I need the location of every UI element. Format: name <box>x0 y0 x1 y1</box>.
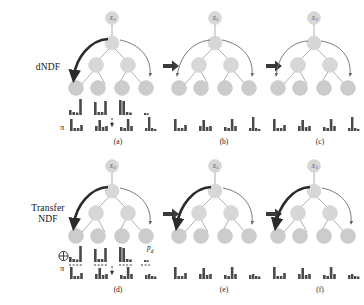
panel-d-leaf-3 <box>139 229 154 244</box>
panel-a-leaf-1 <box>91 81 106 96</box>
panel-c-leaf-2 <box>317 81 332 96</box>
panel-b-node-internal-1 <box>192 58 207 73</box>
panel-b-leaf-2 <box>218 81 233 96</box>
panel-c-tree: X U <box>271 12 356 96</box>
panel-c-leaf-0 <box>271 81 286 96</box>
panel-c-node-internal-2 <box>323 58 338 73</box>
panel-e-node-internal-2 <box>224 206 239 221</box>
panel-c-pi-histograms <box>273 117 359 131</box>
panel-d-leaf-histograms <box>69 246 149 262</box>
panel-d-leaf-1 <box>91 229 106 244</box>
panel-a-leaf-histograms <box>69 99 149 115</box>
panel-f-leaf-3 <box>341 229 356 244</box>
panel-b-leaf-3 <box>242 81 257 96</box>
panel-a-node-internal-2 <box>121 58 136 73</box>
panel-f-node-internal-2 <box>323 206 338 221</box>
arrow-d-to-e <box>163 209 179 220</box>
panel-c-node-internal-1 <box>291 58 306 73</box>
panel-f-leaf-2 <box>317 229 332 244</box>
figure-svg: X S <box>0 0 364 305</box>
panel-f-node-internal-1 <box>291 206 306 221</box>
panel-a-leaf-2 <box>115 81 130 96</box>
panel-a-tree: X S <box>69 12 154 96</box>
panel-b-arc-left <box>177 40 210 76</box>
panel-e-leaf-2 <box>218 229 233 244</box>
panel-b-node-internal-0 <box>208 36 222 50</box>
panel-c-node-internal-0 <box>307 36 321 50</box>
panel-a-node-internal-1 <box>89 58 104 73</box>
panel-f-tree: X U <box>271 160 356 244</box>
panel-a-leaf-3 <box>139 81 154 96</box>
panel-e-pi-histograms <box>174 267 260 279</box>
panel-b-node-internal-2 <box>224 58 239 73</box>
panel-b-leaf-1 <box>194 81 209 96</box>
panel-e-leaf-3 <box>242 229 257 244</box>
panel-e-node-internal-1 <box>192 206 207 221</box>
panel-c-leaf-1 <box>293 81 308 96</box>
panel-e-tree: X L <box>172 160 257 244</box>
panel-f-leaf-1 <box>293 229 308 244</box>
arrow-a-to-b <box>163 61 179 72</box>
panel-f-leaf-0 <box>271 229 286 244</box>
panel-d-node-internal-2 <box>121 206 136 221</box>
panel-f-pi-histograms <box>273 267 359 279</box>
panel-a-root-sub: S <box>114 17 116 22</box>
panel-a-leaf-0 <box>69 81 84 96</box>
panel-c-leaf-3 <box>341 81 356 96</box>
panel-c-arc-left <box>276 41 308 76</box>
panel-a-pi-histograms <box>70 117 156 131</box>
panel-d-root-sub: S <box>114 165 116 170</box>
panel-d-tree: X S <box>69 160 154 244</box>
figure-canvas: dNDF Transfer NDF π π pd (a) (b) (c) (d)… <box>0 0 364 305</box>
panel-e-leaf-0 <box>172 229 187 244</box>
panel-d-node-internal-1 <box>89 206 104 221</box>
panel-d-pi-histograms <box>70 267 156 279</box>
panel-d-leaf-2 <box>115 229 130 244</box>
panel-b-tree: X L <box>172 12 257 96</box>
panel-d-leaf-0 <box>69 229 84 244</box>
oplus-icon <box>59 251 68 260</box>
panel-b-pi-histograms <box>174 117 260 131</box>
panel-e-leaf-1 <box>194 229 209 244</box>
panel-b-leaf-0 <box>172 81 187 96</box>
